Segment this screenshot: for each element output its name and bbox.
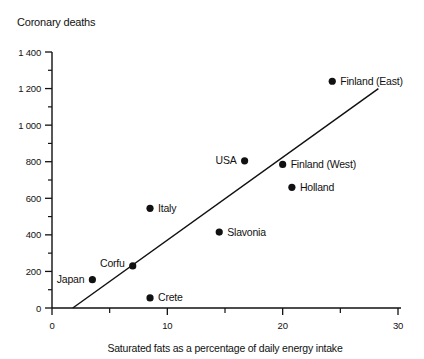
trend-line xyxy=(73,89,379,308)
data-point-label: Corfu xyxy=(100,257,125,269)
chart-svg: 010203002004006008001 0001 2001 400Japan… xyxy=(0,0,424,359)
data-point-label: Italy xyxy=(158,202,177,214)
data-point-label: Slavonia xyxy=(227,226,266,238)
x-tick-label: 30 xyxy=(393,320,403,331)
y-tick-label: 0 xyxy=(36,303,41,314)
y-tick-label: 600 xyxy=(26,193,41,204)
x-tick-label: 20 xyxy=(278,320,288,331)
x-axis-title: Saturated fats as a percentage of daily … xyxy=(52,342,398,354)
data-point-label: Japan xyxy=(57,273,85,285)
data-point xyxy=(288,184,295,191)
data-point xyxy=(146,205,153,212)
data-point xyxy=(279,161,286,168)
y-tick-label: 800 xyxy=(26,156,41,167)
data-point-label: USA xyxy=(216,154,237,166)
data-point xyxy=(329,78,336,85)
data-point xyxy=(216,229,223,236)
data-point-label: Holland xyxy=(300,181,335,193)
data-point xyxy=(89,276,96,283)
data-point-label: Finland (East) xyxy=(340,75,403,87)
data-point xyxy=(146,294,153,301)
x-tick-label: 0 xyxy=(49,320,54,331)
chart: Coronary deaths 010203002004006008001 00… xyxy=(0,0,424,359)
data-point-label: Finland (West) xyxy=(291,158,356,170)
y-tick-label: 1 200 xyxy=(18,83,41,94)
y-tick-label: 400 xyxy=(26,229,41,240)
data-point xyxy=(129,262,136,269)
x-tick-label: 10 xyxy=(162,320,172,331)
y-tick-label: 1 400 xyxy=(18,47,41,58)
y-tick-label: 1 000 xyxy=(18,120,41,131)
data-point xyxy=(241,157,248,164)
y-tick-label: 200 xyxy=(26,266,41,277)
data-point-label: Crete xyxy=(158,291,183,303)
